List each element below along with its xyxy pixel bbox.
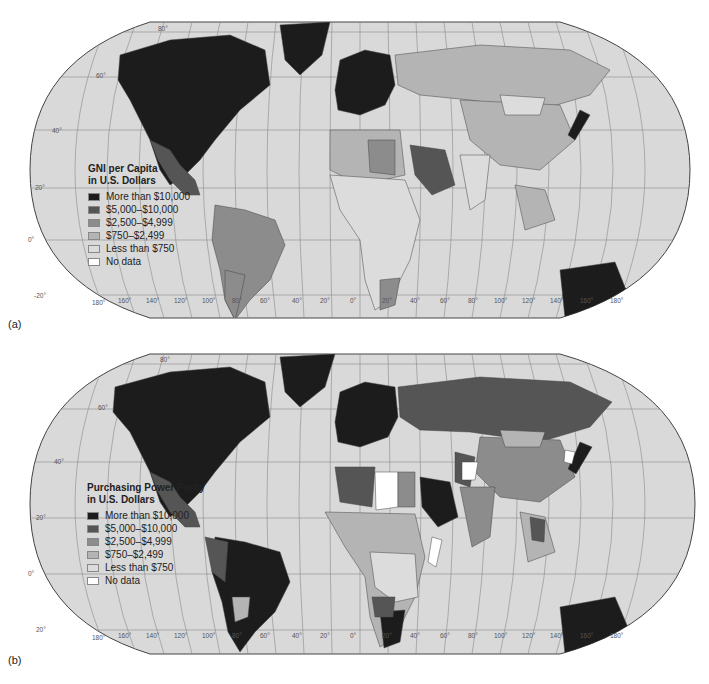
svg-text:100°: 100°: [202, 632, 216, 639]
svg-text:140°: 140°: [146, 297, 160, 304]
legend-label: $5,000–$10,000: [106, 203, 178, 216]
svg-text:160°: 160°: [118, 632, 132, 639]
legend-item: No data: [87, 574, 205, 587]
legend-item: $5,000–$10,000: [88, 203, 190, 216]
svg-text:120°: 120°: [522, 632, 536, 639]
swatch-750-2499: [87, 551, 99, 559]
panel-label-a: (a): [8, 318, 21, 330]
svg-text:140°: 140°: [550, 632, 564, 639]
svg-text:0°: 0°: [350, 297, 357, 304]
svg-text:140°: 140°: [146, 632, 160, 639]
svg-text:80°: 80°: [468, 297, 478, 304]
svg-text:100°: 100°: [494, 297, 508, 304]
svg-text:0°: 0°: [28, 570, 35, 577]
swatch-5000-10000: [87, 525, 99, 533]
legend-label: $2,500–$4,999: [105, 535, 172, 548]
svg-text:40°: 40°: [292, 632, 302, 639]
legend-item: No data: [88, 255, 190, 268]
swatch-2500-4999: [88, 219, 100, 227]
svg-text:20°: 20°: [382, 297, 392, 304]
map-panel-ppp: 80° 60° 40° 20° 0° 20° 180°160° 140°120°…: [0, 342, 709, 684]
legend-label: Less than $750: [105, 561, 173, 574]
swatch-2500-4999: [87, 538, 99, 546]
lat-label-40: 40°: [52, 127, 62, 134]
swatch-5000-10000: [88, 206, 100, 214]
lat-label-80: 80°: [158, 25, 168, 32]
legend-title: Purchasing Power Parity in U.S. Dollars: [87, 482, 205, 506]
svg-text:120°: 120°: [522, 297, 536, 304]
svg-text:180°: 180°: [92, 634, 106, 641]
svg-text:20°: 20°: [320, 297, 330, 304]
legend-item: $750–$2,499: [88, 229, 190, 242]
svg-text:60°: 60°: [440, 297, 450, 304]
svg-text:180°: 180°: [610, 297, 624, 304]
legend-label: $5,000–$10,000: [105, 522, 177, 535]
swatch-less-than-750: [87, 564, 99, 572]
svg-text:20°: 20°: [36, 514, 46, 521]
legend-label: More than $10,000: [106, 190, 190, 203]
svg-text:160°: 160°: [580, 297, 594, 304]
svg-text:100°: 100°: [202, 297, 216, 304]
lat-label-0: 0°: [28, 236, 35, 243]
svg-text:160°: 160°: [118, 297, 132, 304]
swatch-more-than-10000: [88, 193, 100, 201]
svg-text:80°: 80°: [232, 297, 242, 304]
swatch-750-2499: [88, 232, 100, 240]
legend-label: Less than $750: [106, 242, 174, 255]
legend-item: More than $10,000: [88, 190, 190, 203]
legend-gni: GNI per Capita in U.S. Dollars More than…: [88, 163, 190, 268]
svg-text:100°: 100°: [494, 632, 508, 639]
legend-label: No data: [106, 255, 141, 268]
svg-text:20°: 20°: [320, 632, 330, 639]
svg-text:160°: 160°: [580, 632, 594, 639]
svg-text:180°: 180°: [610, 632, 624, 639]
svg-text:40°: 40°: [410, 632, 420, 639]
legend-item: Less than $750: [88, 242, 190, 255]
svg-text:20°: 20°: [382, 632, 392, 639]
lat-label-neg20: -20°: [34, 292, 46, 299]
svg-text:40°: 40°: [410, 297, 420, 304]
swatch-no-data: [88, 258, 100, 266]
svg-text:80°: 80°: [160, 356, 170, 363]
legend-label: More than $10,000: [105, 509, 189, 522]
lat-label-60: 60°: [96, 72, 106, 79]
svg-text:60°: 60°: [260, 297, 270, 304]
lat-label-20: 20°: [35, 184, 45, 191]
panel-label-b: (b): [8, 654, 21, 666]
legend-item: $2,500–$4,999: [87, 535, 205, 548]
swatch-less-than-750: [88, 245, 100, 253]
svg-text:60°: 60°: [98, 404, 108, 411]
legend-title: GNI per Capita in U.S. Dollars: [88, 163, 190, 187]
legend-item: $2,500–$4,999: [88, 216, 190, 229]
legend-item: $750–$2,499: [87, 548, 205, 561]
legend-item: Less than $750: [87, 561, 205, 574]
legend-item: $5,000–$10,000: [87, 522, 205, 535]
legend-item: More than $10,000: [87, 509, 205, 522]
legend-label: No data: [105, 574, 140, 587]
legend-label: $2,500–$4,999: [106, 216, 173, 229]
legend-label: $750–$2,499: [106, 229, 164, 242]
legend-ppp: Purchasing Power Parity in U.S. Dollars …: [87, 482, 205, 587]
svg-text:80°: 80°: [468, 632, 478, 639]
svg-text:180°: 180°: [92, 299, 106, 306]
svg-text:140°: 140°: [550, 297, 564, 304]
svg-text:20°: 20°: [36, 626, 46, 633]
legend-label: $750–$2,499: [105, 548, 163, 561]
svg-text:80°: 80°: [232, 632, 242, 639]
svg-text:40°: 40°: [292, 297, 302, 304]
swatch-more-than-10000: [87, 512, 99, 520]
svg-text:120°: 120°: [174, 632, 188, 639]
svg-text:60°: 60°: [440, 632, 450, 639]
svg-text:0°: 0°: [350, 632, 357, 639]
svg-text:40°: 40°: [54, 458, 64, 465]
svg-text:120°: 120°: [174, 297, 188, 304]
svg-text:60°: 60°: [260, 632, 270, 639]
swatch-no-data: [87, 577, 99, 585]
map-panel-gni: 80° 60° 40° 20° 0° -20° 180°160° 140°120…: [0, 0, 709, 342]
